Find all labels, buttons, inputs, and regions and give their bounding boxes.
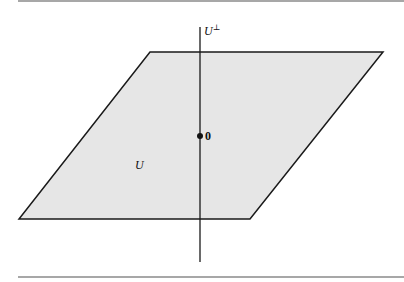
axis-label-superscript: ⊥	[213, 23, 221, 32]
axis-label: U⊥	[204, 23, 220, 38]
origin-label: 0	[205, 129, 211, 143]
subspace-diagram: 0 U⊥ U	[0, 0, 404, 282]
origin-point	[197, 133, 203, 139]
plane-label: U	[135, 158, 145, 172]
